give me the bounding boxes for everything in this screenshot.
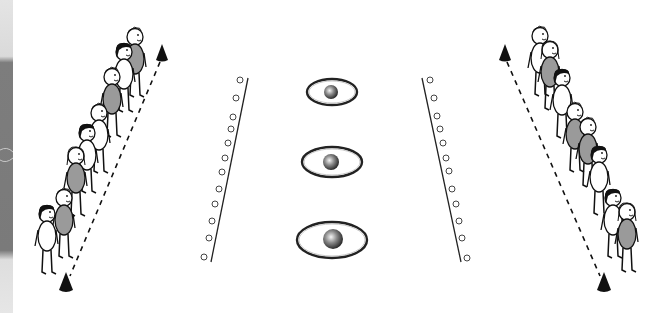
cone-icon [156, 44, 168, 62]
ball-icon [324, 85, 338, 99]
ball-icon [323, 229, 343, 249]
child-figure [52, 188, 75, 258]
target-oval [307, 79, 357, 105]
child-figure [615, 203, 638, 272]
child-figure [35, 205, 58, 274]
scene-canvas [0, 0, 666, 313]
cone-icon [499, 44, 511, 62]
left-line-children [35, 27, 146, 274]
child-figure [587, 146, 610, 215]
left-marker-row [201, 77, 248, 262]
ball-icon [323, 154, 339, 170]
target-oval [302, 147, 362, 177]
drill-diagram [0, 0, 666, 313]
target-oval [297, 222, 367, 258]
right-marker-row [422, 77, 470, 262]
